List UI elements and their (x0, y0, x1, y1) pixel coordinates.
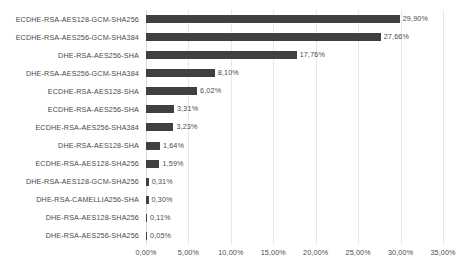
bar-value-label: 27,66% (384, 33, 409, 41)
category-label: ECDHE-RSA-AES256-SHA384 (0, 123, 139, 132)
bar-chart: ECDHE-RSA-AES128-GCM-SHA25629,90%ECDHE-R… (0, 0, 476, 273)
bar-and-value: 6,02% (146, 87, 221, 95)
category-label: DHE-RSA-AES128-SHA (0, 141, 139, 150)
bar-and-value: 17,76% (146, 51, 325, 59)
bar-value-label: 3,23% (176, 123, 197, 131)
bar-and-value: 27,66% (146, 33, 409, 41)
x-tick-label: 15,00% (261, 248, 286, 258)
category-label: DHE-RSA-AES256-SHA (0, 51, 139, 60)
bar[interactable] (146, 105, 174, 113)
category-label: DHE-RSA-AES256-GCM-SHA384 (0, 69, 139, 78)
bar-row[interactable]: DHE-RSA-AES128-SHA2560,11% (0, 209, 476, 227)
bar[interactable] (146, 123, 173, 131)
bar-value-label: 8,10% (218, 69, 239, 77)
category-label: ECDHE-RSA-AES256-GCM-SHA384 (0, 33, 139, 42)
category-label: DHE-RSA-AES128-GCM-SHA256 (0, 177, 139, 186)
bar-and-value: 3,31% (146, 105, 198, 113)
bar[interactable] (146, 178, 149, 186)
bar-and-value: 0,05% (146, 232, 171, 240)
bar-value-label: 0,31% (152, 178, 173, 186)
bar-rows: ECDHE-RSA-AES128-GCM-SHA25629,90%ECDHE-R… (0, 0, 476, 235)
bar[interactable] (146, 15, 400, 23)
bar[interactable] (146, 160, 159, 168)
x-tick-label: 30,00% (388, 248, 413, 258)
bar-value-label: 0,05% (150, 232, 171, 240)
bar-value-label: 1,59% (162, 160, 183, 168)
x-axis: 0,00%5,00%10,00%15,00%20,00%25,00%30,00%… (146, 248, 443, 262)
bar-row[interactable]: DHE-RSA-AES128-GCM-SHA2560,31% (0, 173, 476, 191)
bar-and-value: 1,59% (146, 160, 184, 168)
category-label: ECDHE-RSA-AES128-SHA256 (0, 159, 139, 168)
bar-and-value: 29,90% (146, 15, 428, 23)
bar-row[interactable]: DHE-RSA-AES256-SHA17,76% (0, 46, 476, 64)
bar-and-value: 0,31% (146, 178, 173, 186)
category-label: DHE-RSA-AES128-SHA256 (0, 213, 139, 222)
x-tick-label: 20,00% (303, 248, 328, 258)
bar-row[interactable]: ECDHE-RSA-AES256-GCM-SHA38427,66% (0, 28, 476, 46)
bar-row[interactable]: DHE-RSA-AES256-SHA2560,05% (0, 227, 476, 245)
x-tick-label: 5,00% (178, 248, 199, 258)
category-label: DHE-RSA-CAMELLIA256-SHA (0, 195, 139, 204)
bar-value-label: 1,64% (163, 142, 184, 150)
bar[interactable] (146, 142, 160, 150)
bar-value-label: 6,02% (200, 87, 221, 95)
x-tick-label: 35,00% (430, 248, 455, 258)
bar[interactable] (146, 69, 215, 77)
bar-and-value: 0,30% (146, 196, 173, 204)
bar-and-value: 3,23% (146, 123, 198, 131)
bar-value-label: 0,30% (152, 196, 173, 204)
bar-row[interactable]: ECDHE-RSA-AES128-GCM-SHA25629,90% (0, 10, 476, 28)
bar[interactable] (146, 196, 149, 204)
bar[interactable] (146, 33, 381, 41)
bar-value-label: 17,76% (300, 51, 325, 59)
bar-row[interactable]: DHE-RSA-AES256-GCM-SHA3848,10% (0, 64, 476, 82)
bar-row[interactable]: ECDHE-RSA-AES256-SHA3843,23% (0, 118, 476, 136)
bar-row[interactable]: DHE-RSA-AES128-SHA1,64% (0, 137, 476, 155)
bar[interactable] (146, 87, 197, 95)
bar-row[interactable]: ECDHE-RSA-AES256-SHA3,31% (0, 100, 476, 118)
bar-row[interactable]: DHE-RSA-CAMELLIA256-SHA0,30% (0, 191, 476, 209)
category-label: ECDHE-RSA-AES256-SHA (0, 105, 139, 114)
bar-value-label: 29,90% (403, 15, 428, 23)
category-label: ECDHE-RSA-AES128-SHA (0, 87, 139, 96)
bar[interactable] (146, 232, 147, 240)
x-tick-label: 10,00% (218, 248, 243, 258)
bar-row[interactable]: ECDHE-RSA-AES128-SHA2561,59% (0, 155, 476, 173)
bar[interactable] (146, 51, 297, 59)
category-label: ECDHE-RSA-AES128-GCM-SHA256 (0, 15, 139, 24)
bar-value-label: 3,31% (177, 105, 198, 113)
bar-and-value: 0,11% (146, 214, 171, 222)
bar-and-value: 8,10% (146, 69, 239, 77)
bar[interactable] (146, 214, 147, 222)
category-label: DHE-RSA-AES256-SHA256 (0, 231, 139, 240)
x-tick-label: 25,00% (346, 248, 371, 258)
bar-and-value: 1,64% (146, 142, 184, 150)
x-tick-label: 0,00% (135, 248, 156, 258)
bar-value-label: 0,11% (150, 214, 171, 222)
bar-row[interactable]: ECDHE-RSA-AES128-SHA6,02% (0, 82, 476, 100)
